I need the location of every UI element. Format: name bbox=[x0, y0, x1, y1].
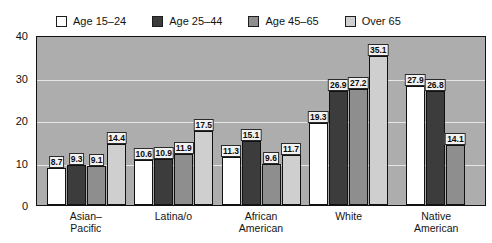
bar: 35.1 bbox=[369, 56, 388, 205]
bar: 10.6 bbox=[134, 160, 153, 205]
bar-value-label: 11.7 bbox=[281, 143, 301, 155]
x-axis-category-label: Latina/o bbox=[130, 210, 218, 242]
bar: 11.3 bbox=[222, 157, 241, 205]
legend-item: Over 65 bbox=[345, 16, 401, 27]
bar-value-label: 35.1 bbox=[368, 44, 389, 56]
legend-label: Age 15–24 bbox=[73, 16, 126, 27]
bar-value-label: 9.6 bbox=[263, 152, 279, 164]
bar-value-label: 26.9 bbox=[328, 79, 349, 91]
bar-set: 11.315.19.611.7 bbox=[222, 37, 301, 205]
bar-set: 19.326.927.235.1 bbox=[309, 37, 388, 205]
bar-value-label: 27.2 bbox=[348, 77, 369, 89]
x-axis-category-label: Native American bbox=[392, 210, 480, 242]
bar-value-label: 14.1 bbox=[445, 133, 466, 145]
x-axis-category-label: White bbox=[305, 210, 393, 242]
bar: 26.9 bbox=[329, 91, 348, 205]
bar: 9.1 bbox=[87, 166, 106, 205]
bar-groups: 8.79.39.114.410.610.911.917.511.315.19.6… bbox=[37, 37, 485, 205]
bar-value-label: 11.3 bbox=[221, 145, 241, 157]
bar-value-label: 27.9 bbox=[405, 74, 426, 86]
legend-swatch-icon bbox=[56, 16, 67, 27]
bar: 10.9 bbox=[154, 159, 173, 205]
x-axis-category-label: African American bbox=[217, 210, 305, 242]
bar-value-label: 11.9 bbox=[174, 142, 194, 154]
bar-value-label: 19.3 bbox=[308, 111, 329, 123]
y-axis-tick-label: 20 bbox=[16, 115, 28, 127]
bar: 27.2 bbox=[349, 89, 368, 205]
bar: 11.7 bbox=[282, 155, 301, 205]
bar-set: 27.926.814.1 bbox=[406, 37, 465, 205]
bar: 8.7 bbox=[47, 168, 66, 205]
legend-swatch-icon bbox=[345, 16, 356, 27]
bar-value-label: 10.9 bbox=[154, 147, 175, 159]
bar: 9.3 bbox=[67, 165, 86, 205]
bar-set: 10.610.911.917.5 bbox=[134, 37, 213, 205]
y-axis-tick-label: 40 bbox=[16, 30, 28, 42]
bar: 15.1 bbox=[242, 141, 261, 205]
bar-value-label: 26.8 bbox=[425, 79, 446, 91]
bar: 26.8 bbox=[426, 91, 445, 205]
y-axis-tick-label: 10 bbox=[16, 158, 28, 170]
bar-group: 19.326.927.235.1 bbox=[305, 37, 392, 205]
legend-label: Over 65 bbox=[362, 16, 401, 27]
y-axis-tick-label: 30 bbox=[16, 73, 28, 85]
bar: 27.9 bbox=[406, 86, 425, 205]
bar: 17.5 bbox=[194, 131, 213, 205]
legend-swatch-icon bbox=[152, 16, 163, 27]
legend-swatch-icon bbox=[248, 16, 259, 27]
bar-group: 27.926.814.1 bbox=[392, 37, 479, 205]
plot-area: 8.79.39.114.410.610.911.917.511.315.19.6… bbox=[36, 36, 486, 206]
legend-label: Age 25–44 bbox=[169, 16, 222, 27]
bar: 14.4 bbox=[107, 144, 126, 205]
bar-group: 11.315.19.611.7 bbox=[217, 37, 304, 205]
bar-group: 10.610.911.917.5 bbox=[130, 37, 217, 205]
bar: 14.1 bbox=[446, 145, 465, 205]
x-axis-category-label: Asian– Pacific bbox=[42, 210, 130, 242]
bar: 11.9 bbox=[174, 154, 193, 205]
y-axis-tick-label: 0 bbox=[22, 200, 28, 212]
chart-legend: Age 15–24Age 25–44Age 45–65Over 65 bbox=[56, 16, 427, 27]
bar-value-label: 8.7 bbox=[49, 156, 65, 168]
bar-value-label: 9.1 bbox=[89, 154, 105, 166]
x-axis-labels: Asian– PacificLatina/oAfrican AmericanWh… bbox=[36, 210, 486, 242]
bar: 19.3 bbox=[309, 123, 328, 205]
grouped-bar-chart: Age 15–24Age 25–44Age 45–65Over 65 01020… bbox=[0, 0, 492, 243]
y-axis: 010203040 bbox=[0, 36, 32, 206]
bar-value-label: 14.4 bbox=[106, 132, 127, 144]
legend-item: Age 15–24 bbox=[56, 16, 126, 27]
bar-value-label: 9.3 bbox=[69, 153, 85, 165]
legend-item: Age 45–65 bbox=[248, 16, 318, 27]
bar-value-label: 15.1 bbox=[241, 129, 262, 141]
bar-value-label: 10.6 bbox=[134, 148, 155, 160]
legend-item: Age 25–44 bbox=[152, 16, 222, 27]
bar: 9.6 bbox=[262, 164, 281, 205]
bar-set: 8.79.39.114.4 bbox=[47, 37, 126, 205]
bar-group: 8.79.39.114.4 bbox=[43, 37, 130, 205]
bar-value-label: 17.5 bbox=[194, 119, 215, 131]
legend-label: Age 45–65 bbox=[265, 16, 318, 27]
